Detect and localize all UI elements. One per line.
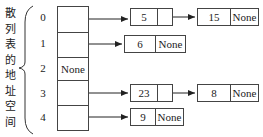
list-node: 15 None <box>197 8 259 26</box>
slot-cell: None <box>57 57 89 81</box>
node-value: 15 <box>198 9 231 25</box>
node-next <box>158 9 172 25</box>
slot-index: 1 <box>38 37 48 49</box>
node-next: None <box>156 109 183 125</box>
list-node: 23 <box>130 84 173 102</box>
slot-index: 4 <box>38 111 48 123</box>
slot-cell <box>57 32 89 58</box>
slot-index: 0 <box>38 11 48 23</box>
node-value: 8 <box>198 85 231 101</box>
slot-cell <box>57 80 89 106</box>
node-value: 5 <box>131 9 158 25</box>
node-next <box>158 85 172 101</box>
list-node: 9 None <box>130 108 184 126</box>
slot-cell <box>57 6 89 33</box>
node-value: 23 <box>131 85 158 101</box>
list-node: 6 None <box>124 35 186 53</box>
node-next: None <box>231 85 258 101</box>
list-node: 5 <box>130 8 173 26</box>
slot-cell <box>57 105 89 131</box>
hash-table-diagram: 散列表的地址空间 0 1 2 3 4 None 5 15 None 6 None <box>0 0 263 137</box>
slot-index: 3 <box>38 87 48 99</box>
slot-index: 2 <box>38 62 48 74</box>
brace <box>19 6 33 134</box>
node-next: None <box>156 36 185 52</box>
list-node: 8 None <box>197 84 259 102</box>
node-value: 6 <box>125 36 156 52</box>
node-value: 9 <box>131 109 156 125</box>
node-next: None <box>231 9 258 25</box>
